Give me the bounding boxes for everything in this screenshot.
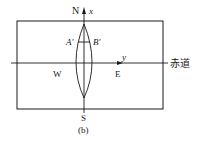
projection-zone-diagram: N x A' B' y W E 赤道 S (b): [0, 0, 198, 145]
label-north: N: [72, 5, 79, 16]
label-x-axis: x: [88, 6, 93, 16]
label-equator: 赤道: [170, 57, 190, 69]
label-east: E: [115, 69, 121, 79]
x-axis-arrow-icon: [82, 7, 86, 14]
label-south: S: [81, 113, 86, 123]
figure-caption: (b): [78, 125, 89, 135]
label-point-a: A': [65, 37, 74, 47]
label-point-b: B': [93, 37, 101, 47]
label-y-axis: y: [121, 52, 126, 62]
label-west: W: [53, 69, 62, 79]
map-frame: [17, 21, 163, 109]
